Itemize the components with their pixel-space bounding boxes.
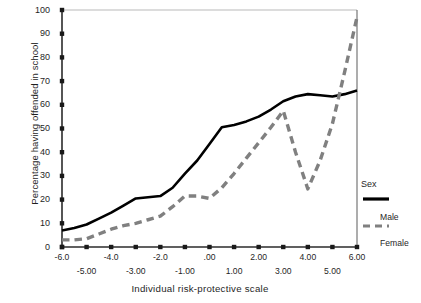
y-tick-mark (60, 79, 64, 83)
y-tick-label: 20 (24, 195, 50, 204)
chart-figure: Percentage having offended in school Ind… (0, 0, 421, 303)
x-tick-mark (109, 245, 113, 249)
x-tick-label: -4.0 (91, 253, 131, 262)
data-series (62, 17, 357, 240)
legend-label-female: Female (380, 238, 409, 248)
y-tick-mark (60, 150, 64, 154)
y-tick-label: 10 (24, 219, 50, 228)
x-tick-mark (183, 245, 187, 249)
x-tick-label: -6.0 (42, 253, 82, 262)
legend-label-male: Male (380, 212, 399, 222)
y-tick-mark (60, 221, 64, 225)
y-tick-label: 60 (24, 100, 50, 109)
x-tick-mark (207, 245, 211, 249)
y-tick-mark (60, 126, 64, 130)
x-tick-mark (281, 245, 285, 249)
x-tick-label: 3.00 (263, 267, 303, 276)
series-line-male (62, 91, 357, 231)
x-tick-mark (232, 245, 236, 249)
axis-ticks (60, 8, 359, 249)
x-tick-label: 5.00 (312, 267, 352, 276)
x-tick-label: .00 (190, 253, 230, 262)
x-tick-mark (306, 245, 310, 249)
x-tick-mark (84, 245, 88, 249)
x-tick-mark (256, 245, 260, 249)
y-tick-label: 100 (24, 6, 50, 15)
legend-title: Sex (361, 179, 377, 189)
x-tick-label: 4.00 (288, 253, 328, 262)
y-tick-label: 0 (24, 243, 50, 252)
y-tick-mark (60, 174, 64, 178)
y-tick-mark (60, 8, 64, 12)
y-tick-label: 90 (24, 29, 50, 38)
y-tick-label: 70 (24, 77, 50, 86)
x-tick-mark (134, 245, 138, 249)
x-tick-mark (330, 245, 334, 249)
axes (62, 10, 357, 247)
x-tick-mark (158, 245, 162, 249)
x-tick-label: 6.00 (337, 253, 377, 262)
series-line-female (62, 17, 357, 240)
x-tick-label: -5.00 (67, 267, 107, 276)
y-tick-mark (60, 55, 64, 59)
y-tick-label: 40 (24, 148, 50, 157)
y-tick-mark (60, 103, 64, 107)
x-tick-label: 2.00 (239, 253, 279, 262)
x-tick-label: -2.0 (140, 253, 180, 262)
x-tick-mark (355, 245, 359, 249)
x-axis-title: Individual risk-protective scale (0, 283, 400, 294)
y-tick-label: 50 (24, 124, 50, 133)
y-tick-mark (60, 197, 64, 201)
y-tick-label: 80 (24, 53, 50, 62)
x-tick-label: -1.00 (165, 267, 205, 276)
x-tick-mark (60, 245, 64, 249)
y-tick-mark (60, 32, 64, 36)
x-tick-label: 1.00 (214, 267, 254, 276)
y-tick-label: 30 (24, 171, 50, 180)
x-tick-label: -3.00 (116, 267, 156, 276)
